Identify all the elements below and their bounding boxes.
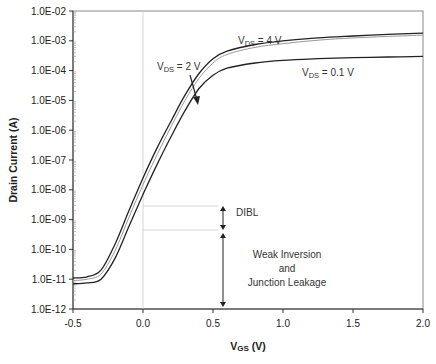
y-tick-label: 1.0E-06 [31, 125, 66, 136]
dibl-label: DIBL [236, 207, 259, 218]
y-tick-label: 1.0E-03 [31, 35, 66, 46]
y-tick-label: 1.0E-07 [31, 155, 66, 166]
weak-inversion-label: Weak Inversion [253, 249, 322, 260]
and-label: and [279, 263, 296, 274]
x-tick-label: -0.5 [64, 318, 82, 329]
x-tick-label: 0.0 [136, 318, 150, 329]
y-tick-label: 1.0E-09 [31, 214, 66, 225]
y-tick-label: 1.0E-12 [31, 304, 66, 315]
x-tick-label: 0.5 [206, 318, 220, 329]
x-ticks: -0.50.00.51.01.52.0 [64, 309, 430, 329]
plot-area [73, 11, 423, 309]
x-tick-label: 2.0 [416, 318, 430, 329]
x-tick-label: 1.5 [346, 318, 360, 329]
y-axis-title: Drain Current (A) [7, 117, 19, 202]
junction-leakage-label: Junction Leakage [248, 277, 327, 288]
y-tick-label: 1.0E-05 [31, 95, 66, 106]
x-axis-title: VGS (V) [230, 340, 266, 353]
y-tick-label: 1.0E-08 [31, 184, 66, 195]
y-ticks: 1.0E-021.0E-031.0E-041.0E-051.0E-061.0E-… [31, 6, 76, 315]
y-tick-label: 1.0E-10 [31, 244, 66, 255]
iv-chart: 1.0E-021.0E-031.0E-041.0E-051.0E-061.0E-… [0, 0, 436, 364]
y-tick-label: 1.0E-04 [31, 65, 66, 76]
y-tick-label: 1.0E-11 [32, 274, 67, 285]
y-tick-label: 1.0E-02 [31, 6, 66, 17]
x-tick-label: 1.0 [276, 318, 290, 329]
